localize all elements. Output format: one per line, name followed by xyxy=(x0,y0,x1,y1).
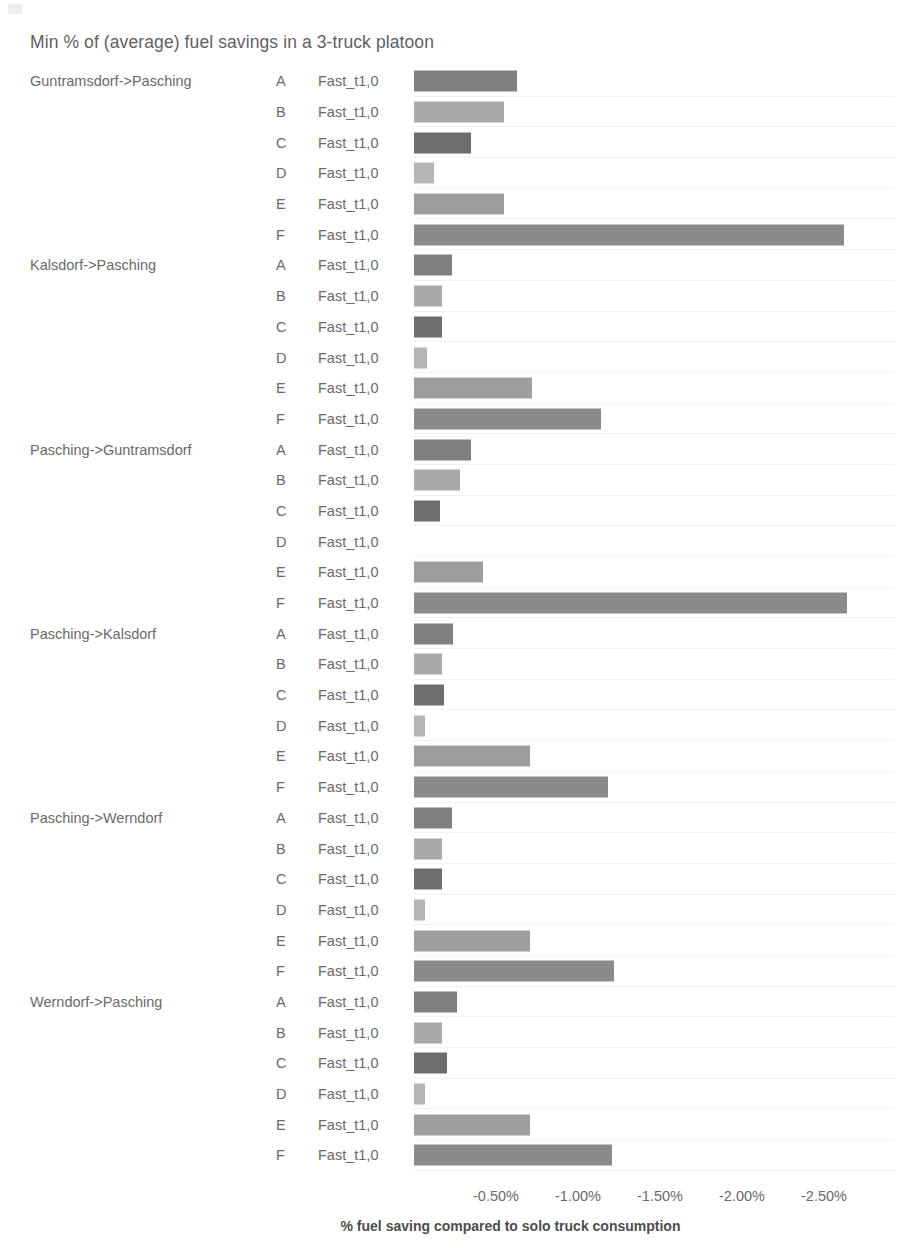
row-series-label: Fast_t1,0 xyxy=(318,595,378,611)
bar-track xyxy=(414,66,903,97)
bar-track xyxy=(414,1109,903,1140)
bar-track xyxy=(414,864,903,895)
row-series-label: Fast_t1,0 xyxy=(318,933,378,949)
row-series-label: Fast_t1,0 xyxy=(318,288,378,304)
row-letter-label: D xyxy=(276,165,294,181)
bar-Werndorf->Pasching-F xyxy=(414,1145,612,1166)
row-letter-label: B xyxy=(276,656,294,672)
bar-track xyxy=(414,189,903,220)
x-tick-label: -2.50% xyxy=(801,1188,847,1204)
page-corner-artifact xyxy=(8,4,22,14)
bar-Pasching->Kalsdorf-E xyxy=(414,746,530,767)
bar-track xyxy=(414,1017,903,1048)
bar-Werndorf->Pasching-A xyxy=(414,991,457,1012)
bar-Pasching->Werndorf-D xyxy=(414,899,425,920)
bar-track xyxy=(414,741,903,772)
chart-container: Min % of (average) fuel savings in a 3-t… xyxy=(0,0,903,1248)
bar-track xyxy=(414,158,903,189)
row-series-label: Fast_t1,0 xyxy=(318,104,378,120)
chart-row: DFast_t1,0 xyxy=(0,526,903,557)
row-series-label: Fast_t1,0 xyxy=(318,135,378,151)
row-letter-label: D xyxy=(276,534,294,550)
bar-Pasching->Kalsdorf-F xyxy=(414,777,608,798)
bar-track xyxy=(414,1140,903,1171)
row-separator xyxy=(414,1170,895,1171)
row-series-label: Fast_t1,0 xyxy=(318,779,378,795)
row-letter-label: F xyxy=(276,595,294,611)
row-letter-label: E xyxy=(276,1117,294,1133)
row-letter-label: B xyxy=(276,104,294,120)
plot-area: Guntramsdorf->PaschingAFast_t1,0BFast_t1… xyxy=(0,66,903,1171)
bar-track xyxy=(414,772,903,803)
row-letter-label: C xyxy=(276,319,294,335)
bar-track xyxy=(414,312,903,343)
bar-track xyxy=(414,956,903,987)
x-tick-label: -2.00% xyxy=(719,1188,765,1204)
bar-Guntramsdorf->Pasching-F xyxy=(414,224,844,245)
row-letter-label: E xyxy=(276,748,294,764)
bar-Werndorf->Pasching-E xyxy=(414,1114,530,1135)
row-series-label: Fast_t1,0 xyxy=(318,902,378,918)
bar-track xyxy=(414,710,903,741)
bar-Pasching->Guntramsdorf-A xyxy=(414,439,471,460)
chart-row: FFast_t1,0 xyxy=(0,219,903,250)
row-series-label: Fast_t1,0 xyxy=(318,165,378,181)
chart-row: FFast_t1,0 xyxy=(0,1140,903,1171)
row-series-label: Fast_t1,0 xyxy=(318,472,378,488)
bar-Pasching->Werndorf-F xyxy=(414,961,614,982)
row-series-label: Fast_t1,0 xyxy=(318,994,378,1010)
bar-Pasching->Werndorf-B xyxy=(414,838,442,859)
bar-Guntramsdorf->Pasching-D xyxy=(414,163,434,184)
row-series-label: Fast_t1,0 xyxy=(318,564,378,580)
chart-row: CFast_t1,0 xyxy=(0,1048,903,1079)
bar-Guntramsdorf->Pasching-B xyxy=(414,102,504,123)
bar-track xyxy=(414,342,903,373)
chart-row: EFast_t1,0 xyxy=(0,557,903,588)
chart-row: DFast_t1,0 xyxy=(0,158,903,189)
row-letter-label: B xyxy=(276,288,294,304)
bar-Werndorf->Pasching-B xyxy=(414,1022,442,1043)
row-series-label: Fast_t1,0 xyxy=(318,319,378,335)
bar-Werndorf->Pasching-C xyxy=(414,1053,447,1074)
row-series-label: Fast_t1,0 xyxy=(318,411,378,427)
row-series-label: Fast_t1,0 xyxy=(318,1147,378,1163)
bar-Guntramsdorf->Pasching-A xyxy=(414,71,517,92)
bar-track xyxy=(414,1079,903,1110)
chart-row: Guntramsdorf->PaschingAFast_t1,0 xyxy=(0,66,903,97)
bar-track xyxy=(414,526,903,557)
bar-Pasching->Guntramsdorf-C xyxy=(414,500,440,521)
bar-track xyxy=(414,373,903,404)
chart-row: EFast_t1,0 xyxy=(0,373,903,404)
bar-Kalsdorf->Pasching-D xyxy=(414,347,427,368)
row-series-label: Fast_t1,0 xyxy=(318,626,378,642)
chart-row: FFast_t1,0 xyxy=(0,956,903,987)
row-letter-label: F xyxy=(276,1147,294,1163)
chart-row: BFast_t1,0 xyxy=(0,281,903,312)
row-letter-label: D xyxy=(276,902,294,918)
chart-row: CFast_t1,0 xyxy=(0,312,903,343)
chart-row: EFast_t1,0 xyxy=(0,189,903,220)
chart-row: BFast_t1,0 xyxy=(0,465,903,496)
bar-Pasching->Werndorf-E xyxy=(414,930,530,951)
bar-Pasching->Guntramsdorf-E xyxy=(414,562,483,583)
bar-track xyxy=(414,925,903,956)
row-series-label: Fast_t1,0 xyxy=(318,442,378,458)
row-letter-label: A xyxy=(276,257,294,273)
row-letter-label: B xyxy=(276,472,294,488)
row-series-label: Fast_t1,0 xyxy=(318,687,378,703)
bar-track xyxy=(414,465,903,496)
row-series-label: Fast_t1,0 xyxy=(318,257,378,273)
row-letter-label: C xyxy=(276,687,294,703)
row-letter-label: C xyxy=(276,871,294,887)
row-series-label: Fast_t1,0 xyxy=(318,380,378,396)
bar-Pasching->Kalsdorf-D xyxy=(414,715,425,736)
chart-row: Werndorf->PaschingAFast_t1,0 xyxy=(0,987,903,1018)
chart-row: CFast_t1,0 xyxy=(0,496,903,527)
chart-row: BFast_t1,0 xyxy=(0,97,903,128)
row-letter-label: B xyxy=(276,841,294,857)
row-letter-label: C xyxy=(276,1055,294,1071)
bar-track xyxy=(414,588,903,619)
chart-row: DFast_t1,0 xyxy=(0,1079,903,1110)
row-series-label: Fast_t1,0 xyxy=(318,350,378,366)
row-letter-label: F xyxy=(276,963,294,979)
